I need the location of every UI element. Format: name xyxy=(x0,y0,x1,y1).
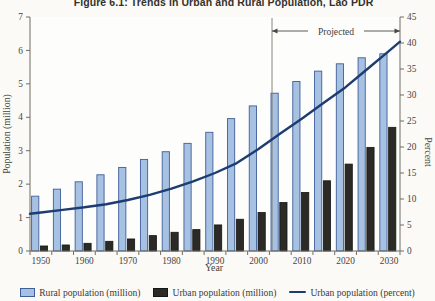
figure-title: Figure 6.1: Trends in Urban and Rural Po… xyxy=(0,0,435,8)
urban-bar-2010 xyxy=(302,193,309,252)
urban-bar-2015 xyxy=(323,181,330,251)
urban-bar-1960 xyxy=(84,243,91,251)
urban-bar-2030 xyxy=(389,127,396,251)
urban-bar-2025 xyxy=(367,147,374,251)
left-tick-label-2: 2 xyxy=(18,179,23,189)
urban-bar-swatch-icon xyxy=(153,288,168,297)
x-tick-label-1960: 1960 xyxy=(75,256,94,266)
rural-bar-1975 xyxy=(140,159,147,251)
figure-6-1-chart: Figure 6.1: Trends in Urban and Rural Po… xyxy=(0,0,435,301)
x-tick-label-2000: 2000 xyxy=(249,256,268,266)
left-tick-label-0: 0 xyxy=(18,246,23,256)
rural-bar-2015 xyxy=(315,71,322,251)
plot-background xyxy=(30,17,400,251)
rural-bar-1990 xyxy=(206,132,213,251)
projected-annotation-label: Projected xyxy=(318,26,354,37)
urban-bar-1975 xyxy=(149,236,156,251)
x-tick-label-2010: 2010 xyxy=(293,256,312,266)
right-tick-label-20: 20 xyxy=(407,142,417,152)
right-tick-label-0: 0 xyxy=(407,246,412,256)
right-tick-label-45: 45 xyxy=(407,12,417,22)
rural-bar-1960 xyxy=(75,182,82,251)
rural-bar-1970 xyxy=(119,167,126,251)
left-tick-label-3: 3 xyxy=(18,146,23,156)
urban-bar-1965 xyxy=(106,241,113,251)
x-tick-label-2020: 2020 xyxy=(336,256,355,266)
rural-bar-1955 xyxy=(53,189,60,251)
rural-bar-1985 xyxy=(184,143,191,251)
urban-bar-1995 xyxy=(236,219,243,251)
urban-bar-1955 xyxy=(62,245,69,251)
legend-label-urban: Urban population (million) xyxy=(172,287,276,298)
rural-bar-2000 xyxy=(249,106,256,251)
right-tick-label-40: 40 xyxy=(407,38,417,48)
urban-bar-2020 xyxy=(345,164,352,251)
x-axis-label: Year xyxy=(205,262,224,273)
legend-label-rural: Rural population (million) xyxy=(39,287,140,298)
urban-bar-2000 xyxy=(258,213,265,251)
urban-bar-1985 xyxy=(193,230,200,251)
legend-item-rural: Rural population (million) xyxy=(20,287,140,298)
x-tick-label-1970: 1970 xyxy=(119,256,138,266)
percent-line-swatch-icon xyxy=(289,291,306,294)
urban-bar-1980 xyxy=(171,232,178,251)
rural-bar-2010 xyxy=(293,82,300,251)
legend-item-urban: Urban population (million) xyxy=(153,287,276,298)
legend-item-urban-percent: Urban population (percent) xyxy=(289,287,414,298)
right-tick-label-35: 35 xyxy=(407,64,417,74)
urban-bar-2005 xyxy=(280,203,287,251)
right-tick-label-30: 30 xyxy=(407,90,417,100)
legend-label-urban-percent: Urban population (percent) xyxy=(310,287,414,298)
rural-bar-2030 xyxy=(380,54,387,251)
plot-area: 0123456705101520253035404519501960197019… xyxy=(0,0,435,301)
rural-bar-swatch-icon xyxy=(20,288,35,297)
generated-chart-layer: 0123456705101520253035404519501960197019… xyxy=(18,12,416,266)
x-tick-label-1950: 1950 xyxy=(32,256,51,266)
x-tick-label-2030: 2030 xyxy=(380,256,399,266)
right-tick-label-25: 25 xyxy=(407,116,417,126)
chart-legend: Rural population (million) Urban populat… xyxy=(0,285,435,299)
left-tick-label-7: 7 xyxy=(18,12,23,22)
left-tick-label-4: 4 xyxy=(18,112,23,122)
right-tick-label-10: 10 xyxy=(407,194,417,204)
urban-bar-1950 xyxy=(40,246,47,251)
urban-bar-1990 xyxy=(215,225,222,251)
x-tick-label-1980: 1980 xyxy=(162,256,181,266)
right-tick-label-5: 5 xyxy=(407,220,412,230)
right-tick-label-15: 15 xyxy=(407,168,417,178)
left-tick-label-5: 5 xyxy=(18,79,23,89)
left-tick-label-6: 6 xyxy=(18,46,23,56)
rural-bar-1950 xyxy=(32,196,39,251)
y-axis-right-label: Percent xyxy=(423,137,434,167)
rural-bar-2025 xyxy=(358,58,365,251)
left-tick-label-1: 1 xyxy=(18,213,23,223)
rural-bar-1995 xyxy=(227,119,234,251)
y-axis-left-label: Population (million) xyxy=(1,94,13,174)
rural-bar-1980 xyxy=(162,152,169,251)
rural-bar-1965 xyxy=(97,175,104,251)
urban-bar-1970 xyxy=(127,239,134,251)
